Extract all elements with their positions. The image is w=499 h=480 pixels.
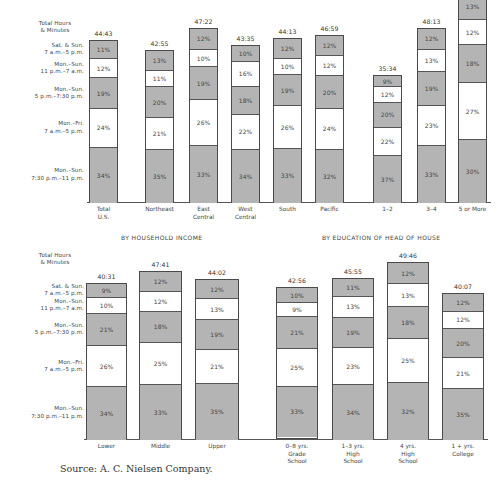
section-title-income: BY HOUSEHOLD INCOME xyxy=(121,234,202,241)
bar-segment: 33% xyxy=(277,387,317,437)
bar-segment: 12% xyxy=(140,292,181,312)
label-line: Total Hours xyxy=(0,20,110,27)
bar-segment: 12% xyxy=(388,263,428,284)
label-line: Grade xyxy=(267,451,327,459)
bar-segment: 35% xyxy=(196,384,238,440)
bar-segment: 12% xyxy=(443,294,483,312)
bar-segment: 23% xyxy=(418,106,445,146)
stacked-bar: 12%13%18%25%32% xyxy=(387,262,429,439)
bar-segment: 12% xyxy=(316,36,343,56)
bar-segment: 23% xyxy=(333,348,373,385)
bar-segment: 35% xyxy=(443,389,483,440)
bar-segment: 18% xyxy=(232,87,259,115)
stacked-bar: 12%10%19%26%33% xyxy=(189,28,218,202)
bar-segment: 13% xyxy=(333,297,373,318)
bar-segment: 9% xyxy=(277,303,317,317)
bar-segment: 18% xyxy=(140,312,181,342)
bar-segment: 12% xyxy=(459,20,486,45)
stacked-bar: 12%12%20%21%35% xyxy=(442,293,484,439)
bar-segment: 34% xyxy=(333,385,373,440)
bar-total-label: 40:07 xyxy=(438,283,488,290)
label-line: 7 a.m.–5 p.m. xyxy=(0,49,84,56)
bar-segment: 24% xyxy=(316,109,343,149)
bar-segment: 12% xyxy=(190,29,217,50)
bar-segment: 20% xyxy=(374,103,401,128)
row-label: Sat. & Sun.7 a.m.–5 p.m. xyxy=(0,42,84,56)
label-line: 5 p.m.–7:30 p.m. xyxy=(0,93,84,100)
bar-segment: 11% xyxy=(333,279,373,297)
category-label: Upper xyxy=(187,443,247,451)
row-label: Mon.–Fri.7 a.m.–5 p.m. xyxy=(0,359,84,373)
label-line: 11 p.m.–7 a.m. xyxy=(0,305,84,312)
category-label: Pacific xyxy=(300,206,360,214)
stacked-bar: 12%10%19%26%33% xyxy=(273,38,302,202)
bar-segment: 26% xyxy=(87,346,126,387)
label-line: 7:30 p.m.–11 p.m. xyxy=(0,175,84,182)
bar-segment: 19% xyxy=(190,67,217,100)
row-label: Sat. & Sun.7 a.m.–5 p.m. xyxy=(0,283,84,297)
bar-segment: 22% xyxy=(232,115,259,150)
stacked-bar: 9%10%21%26%34% xyxy=(86,283,127,439)
bar-segment: 19% xyxy=(333,318,373,349)
bar-segment: 9% xyxy=(87,284,126,298)
label-line: 11 p.m.–7 a.m. xyxy=(0,68,84,75)
bar-segment: 12% xyxy=(418,29,445,50)
bar-segment: 26% xyxy=(274,106,301,149)
category-label: 0–8 yrs.GradeSchool xyxy=(267,443,327,466)
bar-segment: 12% xyxy=(274,39,301,59)
stacked-bar: 9%12%20%22%37% xyxy=(373,75,402,202)
label-line: Total Hours xyxy=(0,252,110,259)
category-label: 5 or More xyxy=(443,206,499,214)
bar-total-label: 45:55 xyxy=(328,268,378,275)
bar-segment: 37% xyxy=(374,156,401,203)
bar-segment: 21% xyxy=(277,317,317,349)
bar-segment: 34% xyxy=(87,387,126,440)
bar-segment: 16% xyxy=(232,62,259,87)
bar-segment: 9% xyxy=(374,76,401,87)
bar-segment: 33% xyxy=(274,149,301,203)
label-line: High xyxy=(323,451,383,459)
bar-segment: 10% xyxy=(190,50,217,67)
label-line: & Minutes xyxy=(0,27,110,34)
label-line: Central xyxy=(216,214,276,222)
category-label: 1–3 yrs.HighSchool xyxy=(323,443,383,466)
bar-segment: 19% xyxy=(196,320,238,350)
category-label: Lower xyxy=(77,443,137,451)
bar-segment: 13% xyxy=(459,0,486,20)
stacked-bar: 11%13%19%23%34% xyxy=(332,278,374,439)
bar-segment: 20% xyxy=(443,329,483,358)
label-line: Mon.–Sun. xyxy=(0,86,84,93)
label-line: Upper xyxy=(187,443,247,451)
bar-segment: 13% xyxy=(418,50,445,73)
bar-total-label: 47:41 xyxy=(136,261,186,268)
label-line: Mon.–Sun. xyxy=(0,167,84,174)
bar-segment: 26% xyxy=(190,100,217,145)
label-line: Mon.–Fri. xyxy=(0,120,84,127)
stacked-bar: 12%13%19%21%35% xyxy=(195,279,239,439)
row-label-header: Total Hours& Minutes xyxy=(0,20,110,34)
bar-total-label: 49:46 xyxy=(383,252,433,259)
bar-segment: 18% xyxy=(388,307,428,339)
category-label: TotalU.S. xyxy=(74,206,134,221)
bar-segment: 19% xyxy=(90,78,117,109)
bar-segment: 33% xyxy=(418,146,445,203)
label-line: & Minutes xyxy=(0,259,110,266)
bar-segment: 21% xyxy=(443,358,483,389)
stacked-bar: 12%13%19%23%33% xyxy=(417,28,446,202)
bar-segment: 33% xyxy=(190,146,217,203)
bar-total-label: 46:59 xyxy=(305,25,355,32)
bar-segment: 12% xyxy=(196,280,238,299)
stacked-bar: 12%12%20%24%32% xyxy=(315,35,344,202)
bar-segment: 10% xyxy=(277,288,317,303)
label-line: 7 a.m.–5 p.m. xyxy=(0,128,84,135)
bar-total-label: 44:02 xyxy=(192,269,242,276)
category-label: 1 + yrs.College xyxy=(433,443,493,458)
category-label: Middle xyxy=(131,443,191,451)
bar-segment: 13% xyxy=(196,299,238,320)
bar-segment: 27% xyxy=(459,83,486,140)
bar-total-label: 35:34 xyxy=(363,65,413,72)
label-line: Mon.–Fri. xyxy=(0,359,84,366)
row-label: Mon.–Sun.7:30 p.m.–11 p.m. xyxy=(0,405,84,419)
bar-segment: 13% xyxy=(146,51,173,71)
label-line: Sat. & Sun. xyxy=(0,42,84,49)
